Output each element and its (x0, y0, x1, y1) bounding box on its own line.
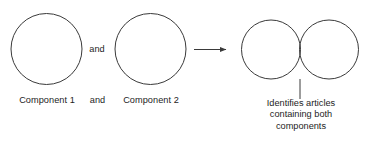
result-caption-line-3: components (234, 121, 368, 132)
operand-circle-2 (115, 14, 186, 85)
result-circle-left (242, 20, 301, 79)
top-conjunction-label: and (82, 44, 112, 55)
result-caption-line-2: containing both (234, 109, 368, 120)
operand-label-2: Component 2 (113, 95, 189, 106)
result-caption-line-1: Identifies articles (234, 98, 368, 109)
result-caption: Identifies articles containing both comp… (234, 98, 368, 132)
operand-circle-1 (11, 14, 82, 85)
operand-label-1: Component 1 (9, 95, 85, 106)
conjunction-label: and (84, 95, 111, 106)
figure-canvas: and Component 1 and Component 2 Identifi… (0, 0, 371, 144)
result-circle-right (300, 20, 359, 79)
